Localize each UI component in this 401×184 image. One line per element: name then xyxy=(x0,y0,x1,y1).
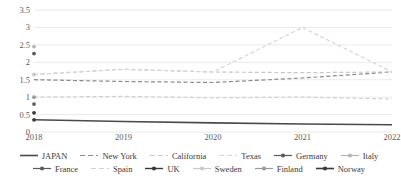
series-line-japan xyxy=(34,120,392,125)
legend-marker-icon xyxy=(273,151,293,160)
series-marker-uk xyxy=(32,111,36,115)
legend-marker-icon xyxy=(19,151,39,160)
legend-marker-icon xyxy=(192,164,212,173)
series-marker-norway xyxy=(32,118,36,122)
legend-item-new-york[interactable]: New York xyxy=(79,151,136,161)
series-line-texas xyxy=(34,27,392,74)
legend-item-norway[interactable]: Norway xyxy=(315,164,365,174)
legend-label: Spain xyxy=(113,164,132,174)
legend-item-france[interactable]: France xyxy=(32,164,78,174)
series-marker-france xyxy=(32,102,36,106)
plot-area: 00.511.522.533.5 20182019202020212022 xyxy=(0,0,397,150)
x-tick-label: 2019 xyxy=(115,132,132,142)
legend-label: France xyxy=(55,164,78,174)
legend-item-finland[interactable]: Finland xyxy=(254,164,303,174)
legend-marker-icon xyxy=(144,164,164,173)
legend-marker-icon xyxy=(90,164,110,173)
legend-row-1: JAPANNew YorkCaliforniaTexasGermanyItaly xyxy=(0,149,397,162)
legend-label: Germany xyxy=(296,151,328,161)
legend-item-japan[interactable]: JAPAN xyxy=(19,151,68,161)
legend-item-uk[interactable]: UK xyxy=(144,164,179,174)
legend-marker-icon xyxy=(254,164,274,173)
x-tick-label: 2021 xyxy=(294,132,311,142)
legend-item-italy[interactable]: Italy xyxy=(340,151,379,161)
legend-label: Finland xyxy=(277,164,303,174)
legend-marker-icon xyxy=(218,151,238,160)
chart-legend: JAPANNew YorkCaliforniaTexasGermanyItaly… xyxy=(0,148,397,184)
series-marker-finland xyxy=(32,95,36,99)
legend-label: Texas xyxy=(241,151,261,161)
legend-item-sweden[interactable]: Sweden xyxy=(192,164,242,174)
legend-marker-icon xyxy=(149,151,169,160)
legend-label: UK xyxy=(167,164,179,174)
legend-item-california[interactable]: California xyxy=(149,151,206,161)
chart-canvas xyxy=(0,0,397,150)
legend-label: New York xyxy=(102,151,136,161)
legend-item-texas[interactable]: Texas xyxy=(218,151,261,161)
series-marker-germany xyxy=(32,52,36,56)
legend-item-germany[interactable]: Germany xyxy=(273,151,328,161)
legend-row-2: FranceSpainUKSwedenFinlandNorway xyxy=(0,162,397,175)
legend-label: Sweden xyxy=(215,164,242,174)
x-tick-label: 2020 xyxy=(205,132,222,142)
legend-marker-icon xyxy=(32,164,52,173)
legend-marker-icon xyxy=(315,164,335,173)
legend-label: Italy xyxy=(363,151,379,161)
legend-label: Norway xyxy=(338,164,365,174)
legend-label: California xyxy=(172,151,206,161)
series-marker-sweden xyxy=(32,73,36,77)
legend-item-spain[interactable]: Spain xyxy=(90,164,132,174)
legend-label: JAPAN xyxy=(42,151,68,161)
legend-marker-icon xyxy=(79,151,99,160)
series-marker-italy xyxy=(32,45,36,49)
x-tick-label: 2022 xyxy=(384,132,401,142)
legend-marker-icon xyxy=(340,151,360,160)
series-line-new-york xyxy=(34,72,392,83)
x-tick-label: 2018 xyxy=(26,132,43,142)
